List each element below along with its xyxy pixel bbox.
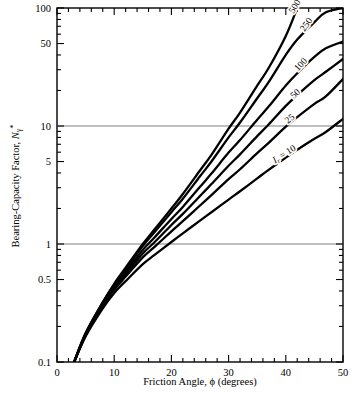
x-tick-label-40: 40 [281,367,292,378]
x-tick-label-10: 10 [109,367,120,378]
x-axis-title: Friction Angle, ϕ (degrees) [143,376,257,388]
x-tick-label-0: 0 [54,367,59,378]
y-tick-label-100: 100 [35,3,51,14]
y-tick-label-10: 10 [41,121,52,132]
bearing-capacity-chart: 0.10.5151050100 01020304050 500500250250… [0,0,362,402]
y-axis-title: Bearing-Capacity Factor, Nγ* [8,125,23,248]
x-tick-label-50: 50 [338,367,349,378]
y-tick-label-5: 5 [46,156,51,167]
y-tick-label-50: 50 [41,38,52,49]
y-tick-label-0.5: 0.5 [38,274,51,285]
y-tick-label-1: 1 [46,239,51,250]
figure-container: 0.10.5151050100 01020304050 500500250250… [0,0,362,402]
y-tick-label-0.1: 0.1 [38,357,51,368]
